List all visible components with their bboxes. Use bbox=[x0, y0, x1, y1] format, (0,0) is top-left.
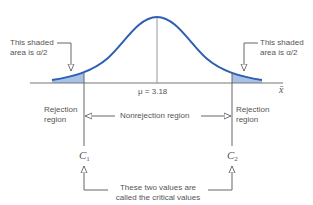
right-rejection-region-label: Rejection region bbox=[236, 105, 269, 125]
left-region-line1: Rejection bbox=[44, 105, 77, 115]
left-tail-note-line1: This shaded bbox=[10, 38, 54, 48]
right-region-line2: region bbox=[236, 115, 269, 125]
axis-label: x̄ bbox=[279, 85, 283, 95]
left-tail-note-line2: area is α/2 bbox=[10, 48, 54, 58]
critical-note-line2: called the critical values bbox=[110, 193, 206, 203]
left-rejection-region-label: Rejection region bbox=[44, 105, 77, 125]
c2-subscript: 2 bbox=[234, 155, 238, 163]
critical-note-line1: These two values are bbox=[110, 183, 206, 193]
left-tail-note: This shaded area is α/2 bbox=[10, 38, 54, 58]
right-region-line1: Rejection bbox=[236, 105, 269, 115]
normal-curve-graphic bbox=[0, 0, 313, 205]
mean-label: μ = 3.18 bbox=[138, 87, 167, 97]
right-tail-note-line2: area is α/2 bbox=[260, 48, 304, 58]
diagram-canvas: This shaded area is α/2 This shaded area… bbox=[0, 0, 313, 205]
critical-value-c1: C1 bbox=[79, 150, 90, 164]
c1-subscript: 1 bbox=[86, 155, 90, 163]
left-region-line2: region bbox=[44, 115, 77, 125]
right-tail-note-line1: This shaded bbox=[260, 38, 304, 48]
nonrejection-region-label: Nonrejection region bbox=[120, 111, 189, 121]
critical-values-note: These two values are called the critical… bbox=[110, 183, 206, 203]
right-tail-note: This shaded area is α/2 bbox=[260, 38, 304, 58]
critical-value-c2: C2 bbox=[227, 150, 238, 164]
